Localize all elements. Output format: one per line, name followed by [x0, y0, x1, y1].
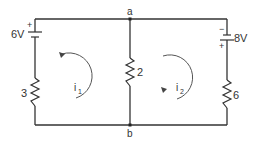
mesh-current-i1: i 1 [59, 52, 92, 98]
resistor-2-zigzag [126, 58, 134, 86]
resistor-6-zigzag [223, 80, 231, 108]
resistor-3-label: 3 [21, 87, 27, 99]
loop-arrow-i2-head [161, 87, 167, 93]
resistor-2-label: 2 [137, 66, 143, 78]
node-b: b [127, 124, 133, 140]
loop-arrow-i1-head [59, 52, 65, 58]
resistor-6-label: 6 [233, 89, 239, 101]
mesh-current-i2: i 2 [161, 55, 193, 99]
node-b-dot [129, 124, 132, 127]
battery-6v: + 6V [11, 20, 42, 40]
wires [35, 19, 227, 125]
resistor-3: 3 [21, 78, 39, 106]
node-a-dot [129, 18, 132, 21]
battery-6v-label: 6V [11, 28, 25, 40]
resistor-3-zigzag [31, 78, 39, 106]
mesh-current-i1-subscript: 1 [78, 88, 82, 95]
mesh-current-i2-subscript: 2 [180, 88, 184, 95]
node-a-label: a [127, 6, 133, 17]
node-a: a [127, 6, 133, 21]
battery-8v-plus-sign: + [219, 41, 224, 51]
battery-8v-label: 8V [234, 32, 248, 44]
battery-8v: − + 8V [219, 24, 248, 51]
mesh-current-i2-symbol: i [176, 82, 178, 93]
battery-6v-plus-sign: + [27, 20, 32, 30]
resistor-6: 6 [223, 80, 239, 108]
resistor-2: 2 [126, 58, 143, 86]
circuit-diagram: a b + 6V − + 8V 3 2 6 i 1 [0, 0, 260, 143]
mesh-current-i1-symbol: i [74, 82, 76, 93]
battery-8v-minus-sign: − [219, 24, 224, 34]
node-b-label: b [127, 128, 133, 139]
